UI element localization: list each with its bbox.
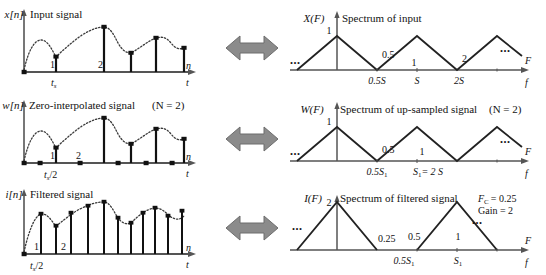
panel-title: Spectrum of input: [342, 12, 421, 24]
zero-sample-marker: [144, 161, 149, 165]
diagram-row-input: x[n] Input signal 1 2 n t ts X(F) Spec: [0, 0, 546, 92]
peak-value-label: 1: [327, 116, 332, 127]
panel-input-spectrum: X(F) Spectrum of input 1 ... ... 0.5 1 2…: [282, 0, 546, 92]
x-axis-label-n: n: [186, 242, 191, 253]
sample-label-1: 1: [34, 241, 39, 252]
panel-title: Zero-interpolated signal: [29, 99, 135, 111]
x-axis-label-F: F: [524, 55, 532, 66]
panel-upsampled-spectrum: W(F) Spectrum of up-sampled signal (N = …: [282, 91, 546, 183]
x-axis-arrowhead: [521, 247, 529, 253]
stem-marker: [141, 211, 146, 215]
zero-sample-marker: [116, 161, 121, 165]
y-axis-label: w[n]: [2, 99, 23, 111]
ellipsis-left: ...: [290, 53, 301, 67]
panel-title: Input signal: [30, 8, 82, 20]
x-axis-label-f: f: [525, 77, 529, 88]
diagram-row-zero-interpolated: w[n] Zero-interpolated signal (N = 2) 1 …: [0, 91, 546, 183]
panel-filtered-spectrum: I(F) Spectrum of filtered signal FC= 0.2…: [282, 182, 546, 274]
stem-marker: [86, 204, 91, 208]
equivalence-arrow-cell-2: [222, 91, 282, 183]
y-axis-label: W(F): [300, 103, 324, 116]
x-axis-label-n: n: [186, 60, 191, 71]
f-tick-0: 0.5: [382, 49, 395, 60]
sample-label-1: 1: [50, 59, 55, 70]
stem-marker: [101, 25, 106, 29]
arrow-shape: [226, 216, 278, 240]
stem-marker: [180, 209, 185, 213]
stem-marker: [128, 142, 133, 146]
panel-filtered-signal: i[n] Filtered signal 1 2 n t ts/2: [0, 182, 222, 274]
filtered-spectrum-plot: I(F) Spectrum of filtered signal FC= 0.2…: [282, 182, 546, 274]
ellipsis-right: ...: [500, 132, 511, 146]
stem-marker: [53, 55, 58, 59]
origin-marker: [22, 161, 27, 165]
ellipsis-left: ...: [292, 219, 303, 233]
stem-marker: [102, 200, 107, 204]
input-signal-plot: x[n] Input signal 1 2 n t ts: [0, 0, 222, 92]
stem-marker: [39, 212, 44, 216]
double-headed-arrow-icon: [222, 182, 282, 274]
panel-input-signal: x[n] Input signal 1 2 n t ts: [0, 0, 222, 92]
zero-sample-marker: [170, 161, 175, 165]
sample-label-2: 2: [61, 241, 66, 252]
arrow-shape: [226, 36, 278, 60]
stem-marker: [128, 51, 133, 55]
tick-label-ts-half: ts/2: [44, 169, 57, 182]
ellipsis-right: ...: [472, 213, 483, 227]
s-tick-0: 0.5S1: [394, 255, 416, 268]
stem-marker: [116, 216, 121, 220]
tick-label-ts-half: ts/2: [30, 260, 43, 273]
f-tick-1: 1: [420, 146, 425, 157]
y-axis-arrowhead: [334, 102, 339, 109]
stem-marker: [153, 36, 158, 40]
f-tick-1: 0.5: [408, 231, 421, 242]
x-axis-label-t: t: [186, 168, 189, 179]
spectrum-triangles: [297, 36, 522, 70]
origin-marker: [22, 70, 27, 74]
panel-note: (N = 2): [489, 103, 522, 116]
f-tick-0: 0.25: [378, 233, 396, 244]
origin-marker: [22, 252, 27, 256]
f-tick-1: 1: [412, 57, 417, 68]
sample-label-2: 2: [98, 59, 103, 70]
f-tick-2: 2: [462, 53, 467, 64]
x-axis-label-n: n: [186, 151, 191, 162]
upsampled-spectrum-plot: W(F) Spectrum of up-sampled signal (N = …: [282, 91, 546, 183]
equivalence-arrow-cell-3: [222, 182, 282, 274]
peak-value-label: 2: [327, 197, 332, 208]
f-tick-0: 0.5: [382, 144, 395, 155]
sample-label-2: 2: [76, 150, 81, 161]
x-axis-label-F: F: [524, 146, 532, 157]
ellipsis-left: ...: [290, 144, 301, 158]
stem-marker: [101, 116, 106, 120]
double-headed-arrow-icon: [222, 0, 282, 92]
f-tick-2: 1: [456, 231, 461, 242]
filtered-signal-plot: i[n] Filtered signal 1 2 n t ts/2: [0, 182, 222, 274]
y-axis-arrowhead: [334, 11, 339, 18]
stem-marker: [181, 137, 186, 141]
panel-title: Spectrum of filtered signal: [340, 192, 458, 204]
x-axis-label-t: t: [186, 77, 189, 88]
x-axis-label-F: F: [524, 235, 532, 246]
stem-marker: [69, 211, 74, 215]
spectrum-triangles: [297, 127, 522, 161]
zero-interpolated-signal-plot: w[n] Zero-interpolated signal (N = 2) 1 …: [0, 91, 222, 183]
stem-marker: [129, 221, 134, 225]
diagram-row-filtered: i[n] Filtered signal 1 2 n t ts/2 I(F) S…: [0, 182, 546, 274]
stem-marker: [53, 146, 58, 150]
sample-label-1: 1: [50, 150, 55, 161]
y-axis-label: i[n]: [5, 188, 22, 200]
x-axis-label-f: f: [525, 257, 529, 268]
stem-marker: [54, 224, 59, 228]
panel-note: (N = 2): [152, 99, 185, 112]
stem-marker: [166, 214, 171, 218]
s-tick-1: S1= 2 S: [413, 166, 443, 179]
s-tick-2: 2S: [454, 75, 464, 86]
double-headed-arrow-icon: [222, 91, 282, 183]
stem-group: [53, 116, 186, 163]
x-axis-label-t: t: [186, 259, 189, 270]
zero-sample-marker: [78, 161, 83, 165]
y-axis-label: x[n]: [4, 8, 24, 20]
y-axis-label: I(F): [303, 192, 322, 205]
s-tick-1: S: [415, 75, 420, 86]
